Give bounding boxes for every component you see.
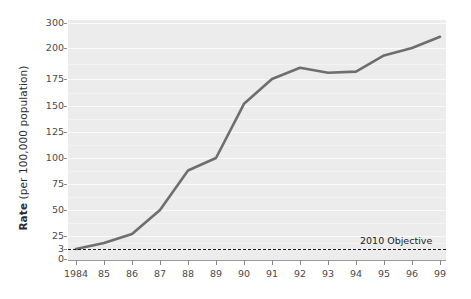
y-tick-label: 25 xyxy=(4,231,64,241)
x-tick-mark xyxy=(76,260,77,265)
y-tick-label: 3 xyxy=(4,244,64,254)
x-tick-label: 96 xyxy=(406,268,418,279)
x-tick-label: 86 xyxy=(126,268,138,279)
x-tick-label: 87 xyxy=(154,268,166,279)
y-tick-mark xyxy=(64,106,67,107)
x-tick-mark xyxy=(188,260,189,265)
y-tick-mark xyxy=(64,249,67,250)
y-tick-mark xyxy=(64,236,67,237)
y-tick-mark xyxy=(64,48,67,49)
x-tick-label: 91 xyxy=(266,268,278,279)
x-tick-mark xyxy=(272,260,273,265)
y-tick-mark xyxy=(64,79,67,80)
y-tick-label: 125 xyxy=(4,127,64,137)
chart-figure: Rate (per 100,000 population) 3002001751… xyxy=(0,0,471,299)
y-tick-mark xyxy=(64,132,67,133)
y-tick-mark xyxy=(64,158,67,159)
y-tick-label: 175 xyxy=(4,74,64,84)
y-tick-mark xyxy=(64,184,67,185)
x-tick-mark xyxy=(328,260,329,265)
x-axis-ticks: 198485868788899091929394959699 xyxy=(0,260,471,299)
x-tick-label: 93 xyxy=(322,268,334,279)
x-tick-label: 88 xyxy=(182,268,194,279)
x-tick-label: 95 xyxy=(378,268,390,279)
x-tick-label: 99 xyxy=(434,268,446,279)
x-tick-mark xyxy=(300,260,301,265)
x-tick-mark xyxy=(160,260,161,265)
data-series-line xyxy=(68,20,446,260)
x-tick-label: 89 xyxy=(210,268,222,279)
x-tick-mark xyxy=(216,260,217,265)
objective-annotation-label: 2010 Objective xyxy=(360,235,432,246)
y-tick-label: 150 xyxy=(4,101,64,111)
x-tick-mark xyxy=(104,260,105,265)
x-tick-mark xyxy=(132,260,133,265)
x-tick-label: 92 xyxy=(294,268,306,279)
x-tick-label: 1984 xyxy=(64,268,88,279)
x-tick-label: 85 xyxy=(98,268,110,279)
y-tick-label: 100 xyxy=(4,153,64,163)
x-tick-mark xyxy=(356,260,357,265)
x-tick-mark xyxy=(412,260,413,265)
x-tick-mark xyxy=(384,260,385,265)
y-tick-label: 300 xyxy=(4,18,64,28)
y-tick-mark xyxy=(64,210,67,211)
plot-panel: 2010 Objective xyxy=(68,20,446,260)
x-tick-mark xyxy=(440,260,441,265)
y-axis-ticks: 30020017515012510075502530 xyxy=(0,20,64,260)
x-tick-label: 90 xyxy=(238,268,250,279)
x-tick-label: 94 xyxy=(350,268,362,279)
y-tick-label: 50 xyxy=(4,205,64,215)
objective-reference-line xyxy=(68,249,446,250)
y-tick-label: 75 xyxy=(4,179,64,189)
x-tick-mark xyxy=(244,260,245,265)
y-tick-label: 200 xyxy=(4,43,64,53)
y-tick-mark xyxy=(64,23,67,24)
